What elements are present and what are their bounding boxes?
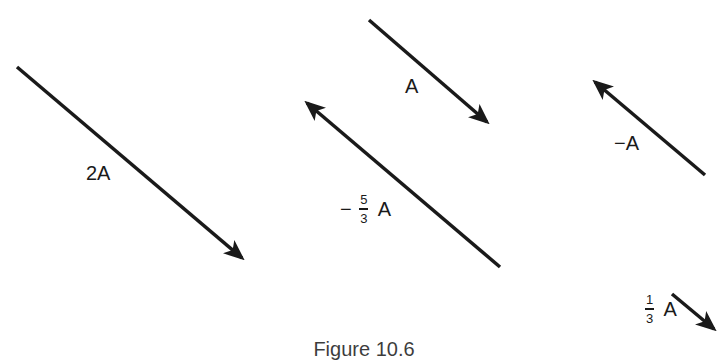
label-2A: 2A (86, 163, 110, 183)
variable-A: A (378, 198, 391, 220)
vector-neg-5-3-A-arrow (307, 103, 500, 267)
figure-caption: Figure 10.6 (0, 338, 728, 361)
vector-2A-arrow (17, 67, 242, 258)
vector-neg-A-arrow (595, 82, 705, 175)
label-A: A (405, 76, 418, 96)
fraction-5-3: 5 3 (359, 193, 368, 225)
minus-sign: − (340, 198, 352, 220)
label-neg-A: −A (614, 133, 639, 153)
fraction-bar (359, 208, 368, 210)
denominator: 3 (646, 312, 653, 325)
variable-A: A (664, 298, 677, 320)
vector-1-3-A-arrow (672, 294, 714, 329)
numerator: 5 (360, 193, 367, 206)
fraction-bar (645, 308, 654, 310)
label-1-3-A: 1 3 A (643, 293, 677, 325)
fraction-1-3: 1 3 (645, 293, 654, 325)
denominator: 3 (360, 212, 367, 225)
label-neg-5-3-A: − 5 3 A (340, 193, 391, 225)
numerator: 1 (646, 293, 653, 306)
vector-A-arrow (369, 20, 487, 122)
